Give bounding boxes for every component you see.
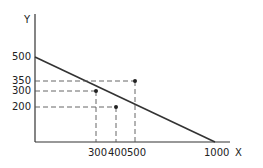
chart: Y X 500 350 300 200 300 400 500 1000 <box>0 0 263 168</box>
x-tick-1000: 1000 <box>204 148 229 158</box>
guides <box>35 81 135 142</box>
y-tick-300: 300 <box>12 86 31 96</box>
point-500-350 <box>133 79 137 83</box>
y-axis-label: Y <box>24 15 30 25</box>
x-tick-500: 500 <box>127 148 146 158</box>
x-tick-400: 400 <box>108 148 127 158</box>
y-tick-500: 500 <box>12 52 31 62</box>
point-400-200 <box>114 105 118 109</box>
chart-svg <box>0 0 263 168</box>
y-tick-200: 200 <box>12 102 31 112</box>
budget-line <box>35 57 215 142</box>
x-tick-300: 300 <box>88 148 107 158</box>
x-axis-label: X <box>235 148 242 158</box>
point-300-300 <box>94 89 98 93</box>
